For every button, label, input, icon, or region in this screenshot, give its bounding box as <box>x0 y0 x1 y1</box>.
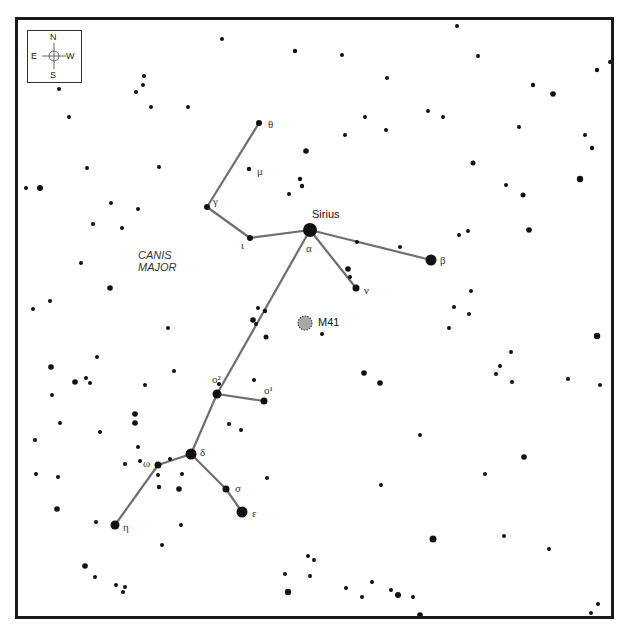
compass-rose: N S E W <box>27 30 82 83</box>
compass-north: N <box>50 33 57 42</box>
label-gamma: γ <box>213 196 218 207</box>
label-epsilon: ε <box>252 508 257 519</box>
label-sigma: σ <box>235 483 241 494</box>
compass-east: E <box>31 52 37 61</box>
label-mu: μ <box>257 166 263 177</box>
m41-label: M41 <box>318 317 339 328</box>
label-beta: β <box>440 255 446 266</box>
sirius-label: Sirius <box>312 209 340 220</box>
constellation-name-line1: CANIS <box>138 249 177 261</box>
label-delta: δ <box>200 447 205 458</box>
label-eta: η <box>123 522 129 533</box>
chart-frame <box>15 17 614 619</box>
label-alpha: α <box>306 243 312 254</box>
label-omicron2: ο² <box>212 374 221 385</box>
label-theta: θ <box>268 119 273 130</box>
label-omicron1: ο¹ <box>264 385 273 396</box>
label-omega: ω <box>143 458 150 469</box>
compass-west: W <box>66 52 75 61</box>
constellation-name: CANIS MAJOR <box>138 249 177 273</box>
label-nu: ν <box>364 285 369 296</box>
constellation-name-line2: MAJOR <box>138 261 177 273</box>
label-iota: ι <box>241 240 244 251</box>
compass-south: S <box>50 71 56 80</box>
